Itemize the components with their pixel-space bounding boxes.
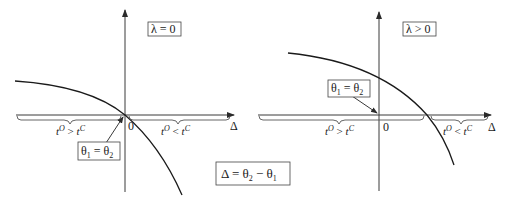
origin-label: 0 [128, 119, 134, 133]
condition-label: λ > 0 [406, 22, 431, 36]
panel-lambda-positive: Δ 0 tO > tC tO < tC λ > 0 θ1 = θ2 [258, 12, 496, 191]
curve [15, 81, 182, 195]
left-region-brace [17, 116, 121, 124]
right-region-label: tO < tC [443, 124, 473, 137]
delta-axis-label: Δ [230, 119, 238, 133]
condition-label: λ = 0 [151, 22, 176, 36]
left-region-brace [259, 116, 424, 124]
diagram-canvas: Δ 0 tO > tC tO < tC λ = 0 θ1 = θ2 Δ 0 tO… [0, 0, 507, 204]
intersection-pointer-arrow [352, 96, 377, 113]
right-region-label: tO < tC [161, 124, 191, 137]
panel-lambda-zero: Δ 0 tO > tC tO < tC λ = 0 θ1 = θ2 [15, 10, 238, 195]
delta-definition: Δ = θ2 − θ1 [216, 162, 290, 185]
right-region-brace [129, 116, 230, 124]
right-region-brace [431, 116, 488, 124]
left-region-label: tO > tC [325, 124, 355, 137]
intersection-label: θ1 = θ2 [81, 144, 113, 160]
delta-axis-label: Δ [488, 120, 496, 134]
origin-label: 0 [383, 120, 389, 134]
intersection-label: θ1 = θ2 [331, 81, 363, 97]
left-region-label: tO > tC [56, 124, 86, 137]
intersection-pointer-arrow [106, 117, 123, 143]
